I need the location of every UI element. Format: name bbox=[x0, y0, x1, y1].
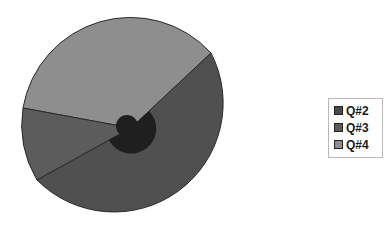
legend-item-q2: Q#2 bbox=[334, 102, 382, 119]
pie-chart bbox=[0, 0, 260, 242]
legend-item-q4: Q#4 bbox=[334, 136, 382, 153]
slice-q1-bump bbox=[116, 115, 138, 137]
legend-label: Q#2 bbox=[346, 104, 369, 118]
legend-swatch-icon bbox=[334, 140, 343, 149]
legend-swatch-icon bbox=[334, 106, 343, 115]
legend-label: Q#3 bbox=[346, 121, 369, 135]
legend-label: Q#4 bbox=[346, 138, 369, 152]
pie-slices bbox=[22, 17, 223, 212]
legend-swatch-icon bbox=[334, 123, 343, 132]
chart-legend: Q#2 Q#3 Q#4 bbox=[328, 98, 383, 158]
legend-item-q3: Q#3 bbox=[334, 119, 382, 136]
